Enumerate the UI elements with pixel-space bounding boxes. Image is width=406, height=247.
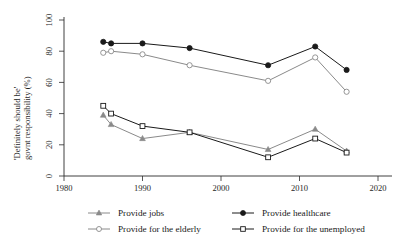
y-tick-label: 0 xyxy=(44,174,54,178)
y-tick-label: 100 xyxy=(44,14,54,27)
data-point-marker xyxy=(312,126,318,131)
data-point-marker xyxy=(187,45,192,50)
data-point-marker xyxy=(266,78,271,83)
data-point-marker xyxy=(266,155,271,160)
data-point-marker xyxy=(100,112,106,117)
data-point-marker xyxy=(241,211,246,216)
y-axis-title: 'Definitely should be' govnt responsibil… xyxy=(12,76,32,160)
series-line xyxy=(103,42,346,70)
legend-label: Provide healthcare xyxy=(262,208,331,218)
series-provide-healthcare xyxy=(101,39,350,72)
legend-item-provide-jobs[interactable]: Provide jobs xyxy=(88,208,165,218)
series-layer xyxy=(100,39,349,159)
y-tick-label: 80 xyxy=(44,47,54,56)
y-tick-label: 20 xyxy=(44,141,54,150)
data-point-marker xyxy=(101,103,106,108)
y-tick-label: 40 xyxy=(44,109,54,118)
chart-legend: Provide jobsProvide healthcareProvide fo… xyxy=(88,208,365,234)
y-axis-title-line1: 'Definitely should be' xyxy=(12,86,22,160)
series-provide-for-the-unemployed xyxy=(101,103,349,159)
x-tick-label: 1990 xyxy=(134,183,151,193)
series-line xyxy=(103,115,346,151)
data-point-marker xyxy=(344,150,349,155)
data-point-marker xyxy=(266,63,271,68)
legend-item-provide-healthcare[interactable]: Provide healthcare xyxy=(232,208,331,218)
data-point-marker xyxy=(109,49,114,54)
data-point-marker xyxy=(313,44,318,49)
legend-label: Provide for the unemployed xyxy=(262,224,365,234)
x-tick-label: 2020 xyxy=(370,183,387,193)
data-point-marker xyxy=(140,41,145,46)
chart-figure: 'Definitely should be' govnt responsibil… xyxy=(0,0,406,247)
data-point-marker xyxy=(313,136,318,141)
x-tick-label: 2000 xyxy=(213,183,230,193)
series-line xyxy=(103,51,346,92)
data-point-marker xyxy=(187,130,192,135)
y-tick-label: 60 xyxy=(44,78,54,87)
y-axis-title-line2: govnt responsibility (%) xyxy=(22,76,32,160)
y-axis-ticks: 020406080100 xyxy=(44,14,64,179)
data-point-marker xyxy=(101,50,106,55)
data-point-marker xyxy=(140,52,145,57)
data-point-marker xyxy=(101,39,106,44)
data-point-marker xyxy=(313,55,318,60)
legend-item-provide-for-the-unemployed[interactable]: Provide for the unemployed xyxy=(232,224,365,234)
data-point-marker xyxy=(344,67,349,72)
data-point-marker xyxy=(109,111,114,116)
legend-label: Provide jobs xyxy=(118,208,165,218)
data-point-marker xyxy=(140,124,145,129)
legend-item-provide-for-the-elderly[interactable]: Provide for the elderly xyxy=(88,224,201,234)
x-axis-ticks: 19801990200020102020 xyxy=(56,176,387,193)
line-chart: 'Definitely should be' govnt responsibil… xyxy=(0,0,406,247)
data-point-marker xyxy=(344,89,349,94)
legend-label: Provide for the elderly xyxy=(118,224,201,234)
series-provide-jobs xyxy=(100,112,349,153)
data-point-marker xyxy=(97,227,102,232)
data-point-marker xyxy=(187,63,192,68)
data-point-marker xyxy=(241,227,246,232)
data-point-marker xyxy=(109,41,114,46)
x-tick-label: 2010 xyxy=(291,183,308,193)
x-tick-label: 1980 xyxy=(56,183,73,193)
